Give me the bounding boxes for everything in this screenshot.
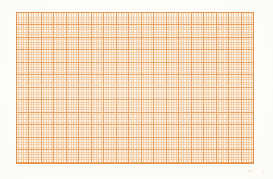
- graph-paper-scan: [0, 0, 273, 179]
- graph-paper-grid: [16, 12, 254, 164]
